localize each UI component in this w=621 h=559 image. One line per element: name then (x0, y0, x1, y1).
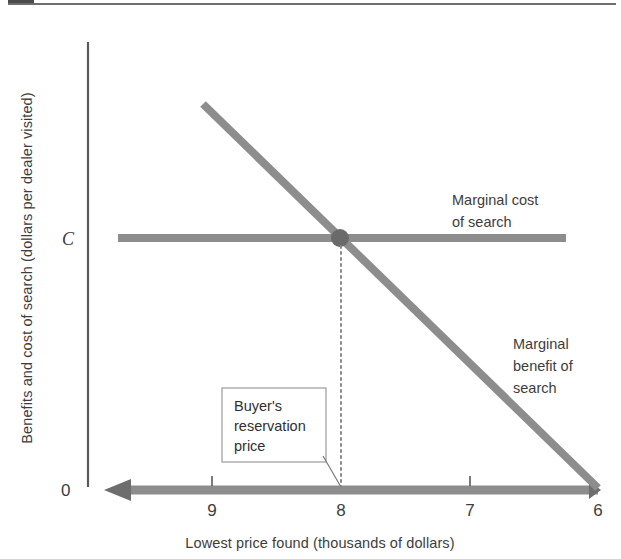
x-axis-left-arrowhead (104, 479, 131, 501)
callout-line-3: price (234, 438, 265, 454)
callout-line-2: reservation (234, 418, 306, 434)
marginal-benefit-label-line-3: search (513, 380, 557, 396)
x-tick-label-6: 6 (593, 501, 602, 520)
y-axis-cost-label: C (62, 229, 75, 249)
x-tick-label-7: 7 (465, 501, 474, 520)
marginal-cost-label-line-2: of search (452, 214, 512, 230)
chart-canvas: Buyer's reservation price Marginal cost … (0, 0, 621, 559)
marginal-benefit-label-line-1: Marginal (513, 336, 569, 352)
marginal-benefit-label-line-2: benefit of (513, 358, 574, 374)
equilibrium-point-marker (331, 229, 349, 247)
x-tick-label-9: 9 (207, 501, 216, 520)
callout-line-1: Buyer's (234, 398, 282, 414)
marginal-cost-label-line-1: Marginal cost (452, 192, 538, 208)
reservation-price-leader-line (323, 456, 341, 487)
y-axis-origin-label: 0 (61, 481, 70, 500)
y-axis-title: Benefits and cost of search (dollars per… (19, 92, 35, 443)
figure-container: Buyer's reservation price Marginal cost … (0, 0, 621, 559)
x-axis-title: Lowest price found (thousands of dollars… (185, 535, 454, 551)
x-tick-label-8: 8 (336, 501, 345, 520)
